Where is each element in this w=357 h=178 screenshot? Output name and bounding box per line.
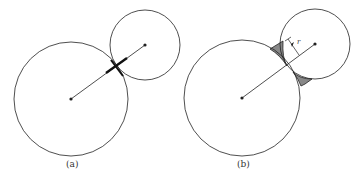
center-dot-small-a — [143, 43, 146, 46]
center-dot-large-b — [240, 96, 243, 99]
label-a: (a) — [66, 159, 78, 169]
center-dot-large-a — [69, 97, 72, 100]
center-dot-small-b — [313, 42, 316, 45]
neck-fill-upper-b — [270, 41, 287, 66]
radius-label-b: r — [297, 38, 301, 46]
label-b: (b) — [237, 159, 250, 169]
panel-b: r (b) — [184, 9, 350, 169]
neck-fill-lower-b — [293, 72, 312, 86]
neck-segment-a — [106, 58, 127, 73]
diagram-canvas: (a) r (b) — [0, 0, 357, 178]
radius-tick-b — [285, 37, 291, 41]
panel-a: (a) — [14, 10, 180, 169]
radius-arrow-icon — [291, 42, 294, 47]
